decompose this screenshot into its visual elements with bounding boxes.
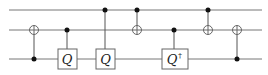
control-dot bbox=[135, 8, 140, 13]
controlled-q-dagger-gate-5: Q † bbox=[162, 28, 188, 70]
quantum-circuit: Q Q Q † bbox=[0, 0, 268, 75]
controlled-q-gate-2: Q bbox=[58, 28, 77, 70]
controlled-q-gate-3: Q bbox=[96, 8, 115, 70]
control-dot bbox=[172, 28, 177, 33]
control-dot bbox=[103, 8, 108, 13]
control-dot bbox=[206, 8, 211, 13]
q-gate-label: Q bbox=[100, 52, 111, 67]
control-dot bbox=[65, 28, 70, 33]
control-dot bbox=[235, 57, 240, 62]
cnot-gate-7 bbox=[233, 26, 242, 62]
control-dot bbox=[32, 57, 37, 62]
dagger-superscript: † bbox=[178, 51, 182, 60]
q-gate-label: Q bbox=[62, 52, 73, 67]
cnot-gate-6 bbox=[204, 8, 213, 35]
q-dagger-gate-label: Q bbox=[167, 52, 178, 67]
cnot-gate-4 bbox=[133, 8, 142, 35]
cnot-gate-1 bbox=[30, 26, 39, 62]
